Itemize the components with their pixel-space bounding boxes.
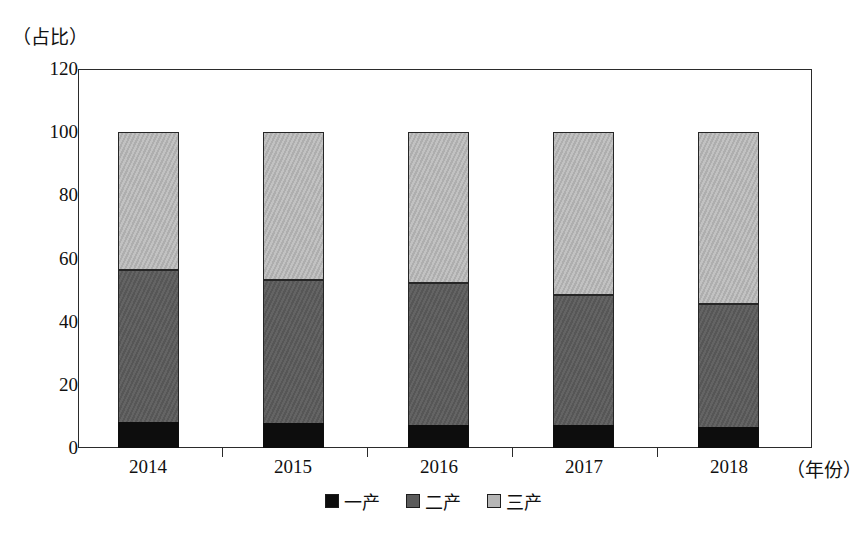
y-tick-label-40: 40: [18, 312, 78, 331]
y-tick-label-0: 0: [18, 438, 78, 457]
legend-item-primary[interactable]: 一产: [325, 488, 380, 514]
bar-2014-segment-primary[interactable]: [118, 422, 179, 448]
bar-2016-segment-primary[interactable]: [408, 425, 469, 448]
bar-2014-segment-tertiary[interactable]: [118, 132, 179, 269]
bar-2018-segment-primary[interactable]: [698, 427, 759, 448]
bar-2015-segment-tertiary[interactable]: [263, 132, 324, 280]
bar-2017-segment-secondary[interactable]: [553, 295, 614, 425]
y-tick-label-100: 100: [18, 122, 78, 141]
bar-2016-segment-tertiary[interactable]: [408, 132, 469, 283]
x-axis-label-2017: 2017: [524, 456, 644, 478]
legend-item-secondary[interactable]: 二产: [406, 488, 461, 514]
legend-swatch-tertiary-icon: [487, 494, 501, 508]
bar-2014-segment-secondary[interactable]: [118, 270, 179, 423]
legend-swatch-secondary-icon: [406, 494, 420, 508]
legend-swatch-primary-icon: [325, 494, 339, 508]
x-tick-mark-3: [512, 448, 513, 457]
legend-item-tertiary[interactable]: 三产: [487, 488, 542, 514]
x-axis-label-2016: 2016: [379, 456, 499, 478]
legend-label-secondary: 二产: [425, 488, 461, 514]
bar-2018-segment-tertiary[interactable]: [698, 132, 759, 304]
legend-label-tertiary: 三产: [506, 488, 542, 514]
y-axis-unit-label: （占比）: [12, 22, 88, 49]
chart-legend: 一产 二产 三产: [0, 488, 867, 514]
bar-2017-segment-tertiary[interactable]: [553, 132, 614, 294]
y-tick-label-60: 60: [18, 249, 78, 268]
legend-label-primary: 一产: [344, 488, 380, 514]
x-axis-label-2014: 2014: [88, 456, 208, 478]
x-axis-unit-label: （年份）: [786, 455, 862, 482]
bar-2016-segment-secondary[interactable]: [408, 283, 469, 425]
x-axis-label-2018: 2018: [669, 456, 789, 478]
stacked-bar-chart: （占比） 120 100 80 60 40 20 0: [0, 0, 867, 541]
y-tick-label-20: 20: [18, 375, 78, 394]
x-axis-label-2015: 2015: [233, 456, 353, 478]
y-tick-label-80: 80: [18, 185, 78, 204]
x-tick-mark-2: [367, 448, 368, 457]
bar-2015-segment-primary[interactable]: [263, 423, 324, 448]
bar-2018-segment-secondary[interactable]: [698, 304, 759, 427]
bar-2017-segment-primary[interactable]: [553, 425, 614, 448]
bar-2015-segment-secondary[interactable]: [263, 280, 324, 423]
y-tick-label-120: 120: [18, 59, 78, 78]
x-tick-mark-4: [657, 448, 658, 457]
x-tick-mark-1: [222, 448, 223, 457]
